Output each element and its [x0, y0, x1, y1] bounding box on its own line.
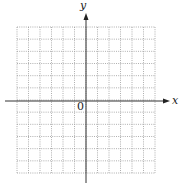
x-axis-arrow-icon — [163, 99, 170, 104]
axes — [5, 13, 170, 183]
origin-label: 0 — [77, 100, 84, 113]
y-axis-label: y — [79, 0, 87, 12]
y-axis-arrow-icon — [84, 13, 89, 20]
coordinate-plane: x y 0 — [0, 0, 179, 185]
x-axis-label: x — [172, 94, 179, 107]
